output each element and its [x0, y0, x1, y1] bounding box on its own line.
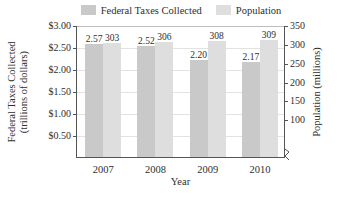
- bar-population: [155, 42, 173, 157]
- x-axis-tick-label: 2007: [93, 164, 114, 175]
- legend-label-population: Population: [236, 5, 282, 16]
- left-axis-tick-label: $2.00: [49, 65, 72, 75]
- right-axis-title: Population (millions): [308, 26, 326, 158]
- bar-value-label-taxes: 2.20: [187, 50, 211, 60]
- left-axis-title-line2: (trillions of dollars): [18, 41, 30, 142]
- right-axis-tick-label: 300: [290, 40, 305, 50]
- axis-break-icon: [281, 148, 293, 162]
- left-axis-title-line1: Federal Taxes Collected: [6, 41, 18, 142]
- bar-value-label-population: 309: [257, 30, 281, 40]
- bar-value-label-taxes: 2.17: [239, 52, 263, 62]
- legend-swatch-federal-taxes-collected: [81, 5, 96, 15]
- right-axis-tick-label: 150: [290, 96, 305, 106]
- left-axis-tick: [73, 136, 77, 137]
- legend-entry-federal-taxes-collected: Federal Taxes Collected: [81, 5, 202, 16]
- bar-federal-taxes-collected: [190, 60, 208, 157]
- x-axis-tick-label: 2010: [249, 164, 270, 175]
- right-axis-tick-label: 100: [290, 115, 305, 125]
- right-axis-tick: [284, 45, 288, 46]
- bar-group: [190, 26, 226, 157]
- x-axis-tick-label: 2008: [145, 164, 166, 175]
- bar-group: [242, 26, 278, 157]
- bar-value-label-population: 303: [100, 33, 124, 43]
- left-axis-tick: [73, 92, 77, 93]
- right-axis-tick: [284, 101, 288, 102]
- chart-legend: Federal Taxes Collected Population: [76, 2, 286, 18]
- left-axis-tick-label: $1.00: [49, 109, 72, 119]
- left-axis-tick: [73, 26, 77, 27]
- bar-group: [85, 26, 121, 157]
- left-axis-tick-label: $0.50: [49, 131, 72, 141]
- left-axis-tick: [73, 70, 77, 71]
- right-axis-tick: [284, 64, 288, 65]
- left-axis-tick: [73, 114, 77, 115]
- legend-swatch-population: [216, 5, 231, 15]
- bar-value-label-population: 308: [205, 31, 229, 41]
- left-axis-tick-label: $2.50: [49, 43, 72, 53]
- x-axis-title: Year: [76, 176, 285, 188]
- right-axis-tick: [284, 26, 288, 27]
- left-axis-tick-label: $1.50: [49, 87, 72, 97]
- legend-label-federal-taxes-collected: Federal Taxes Collected: [101, 5, 202, 16]
- plot-area: 2.573032.523062.203082.17309 $3.00$2.50$…: [76, 26, 285, 158]
- bar-chart: Federal Taxes Collected Population Feder…: [0, 0, 340, 198]
- bar-federal-taxes-collected: [242, 62, 260, 157]
- bar-federal-taxes-collected: [137, 46, 155, 157]
- right-axis-tick-label: 200: [290, 78, 305, 88]
- right-axis-tick: [284, 83, 288, 84]
- x-axis-tick-label: 2009: [197, 164, 218, 175]
- left-axis-tick: [73, 48, 77, 49]
- legend-entry-population: Population: [216, 5, 282, 16]
- bar-series-container: 2.573032.523062.203082.17309: [77, 26, 284, 157]
- bar-population: [103, 43, 121, 157]
- right-axis-tick-label: 250: [290, 59, 305, 69]
- bar-federal-taxes-collected: [85, 44, 103, 157]
- right-axis-tick: [284, 120, 288, 121]
- left-axis-tick-label: $3.00: [49, 21, 72, 31]
- bar-value-label-population: 306: [152, 32, 176, 42]
- right-axis-tick-label: 350: [290, 21, 305, 31]
- left-axis-title: Federal Taxes Collected (trillions of do…: [2, 26, 34, 158]
